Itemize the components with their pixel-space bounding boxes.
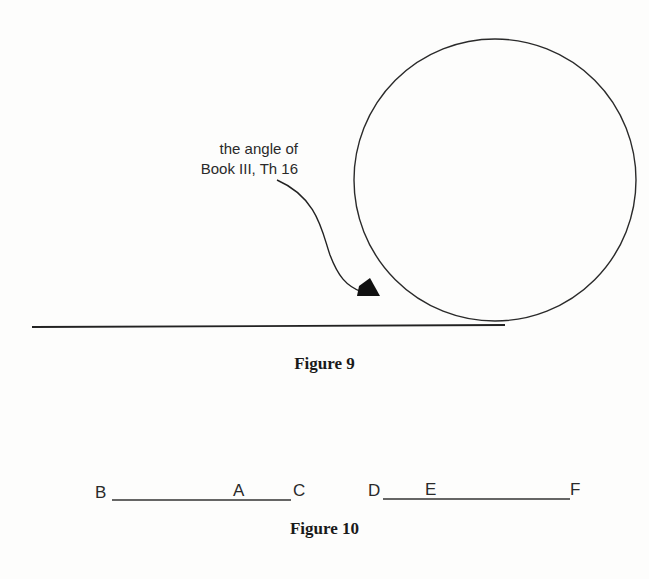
point-label-d: D — [368, 481, 380, 501]
arrowhead-icon — [357, 278, 380, 296]
figure-9-caption: Figure 9 — [0, 354, 649, 374]
angle-annotation-line2: Book III, Th 16 — [150, 159, 298, 178]
point-label-a: A — [233, 481, 244, 501]
circle-shape — [354, 39, 636, 321]
figure-10-caption: Figure 10 — [0, 519, 649, 539]
pointer-arrow-curve — [277, 180, 362, 292]
angle-annotation-line1: the angle of — [150, 139, 298, 158]
tangent-line — [32, 325, 505, 327]
point-label-e: E — [425, 480, 436, 500]
document-page: the angle of Book III, Th 16 Figure 9 B … — [0, 0, 649, 579]
point-label-c: C — [293, 481, 305, 501]
point-label-f: F — [570, 480, 580, 500]
point-label-b: B — [95, 483, 106, 503]
